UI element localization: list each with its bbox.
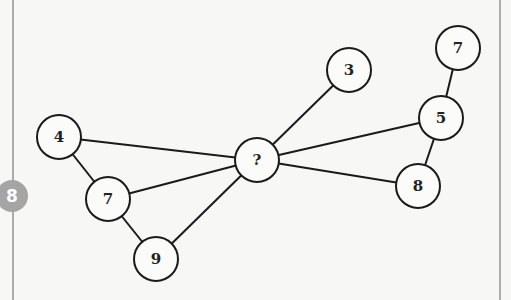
- node-label: 7: [453, 39, 463, 57]
- graph-node: 7: [86, 177, 130, 221]
- graph-node: 5: [419, 96, 463, 140]
- node-label: 3: [344, 61, 354, 79]
- edge-n7a-nq: [108, 160, 257, 199]
- question-number-label: 8: [6, 186, 18, 206]
- edge-n4-nq: [59, 137, 257, 160]
- edge-nq-n5: [257, 118, 441, 160]
- node-label: 9: [151, 250, 161, 268]
- question-number-badge: 8: [0, 180, 28, 212]
- node-label: 5: [436, 109, 446, 127]
- edge-nq-n8: [257, 160, 418, 186]
- nodes-group: 479?3758: [37, 26, 480, 281]
- node-label: ?: [253, 151, 262, 169]
- node-label: 4: [54, 128, 64, 146]
- graph-node: 9: [134, 237, 178, 281]
- graph-node: 3: [327, 48, 371, 92]
- graph-node: 7: [436, 26, 480, 70]
- node-label: 7: [103, 190, 113, 208]
- unknown-node: ?: [235, 138, 279, 182]
- puzzle-page: 479?3758 8: [0, 0, 511, 300]
- graph-node: 4: [37, 115, 81, 159]
- graph-node: 8: [396, 164, 440, 208]
- number-graph-diagram: 479?3758 8: [0, 0, 511, 300]
- node-label: 8: [413, 177, 423, 195]
